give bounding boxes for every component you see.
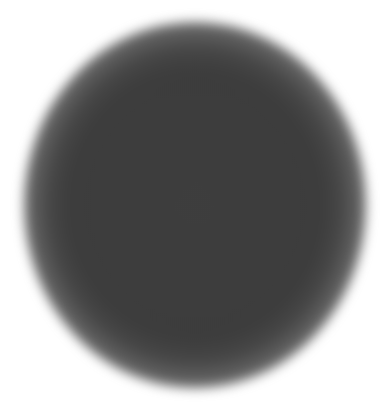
blurred-dark-circle [24, 22, 366, 388]
grain-texture [24, 22, 366, 388]
